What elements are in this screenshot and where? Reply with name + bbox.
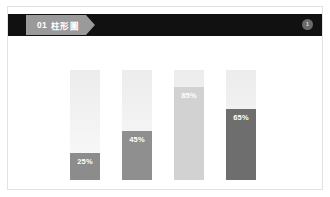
bar-track: 45% [122,70,152,180]
bar-value-label: 45% [129,135,145,144]
bar-value-label: 85% [181,91,197,100]
bar-fill[interactable]: 85% [174,87,204,181]
bar-group[interactable]: 25% [70,70,100,180]
page-number-badge: 1 [302,19,313,30]
bar-track: 25% [70,70,100,180]
slide-title-number: 01 [37,20,47,30]
bar-track: 65% [226,70,256,180]
bar-fill[interactable]: 65% [226,109,256,181]
slide-title-tag[interactable]: 01 柱形圖 [26,15,95,35]
bar-track: 85% [174,70,204,180]
bar-chart: 25%45%85%65% [8,36,323,190]
bar-value-label: 25% [77,157,93,166]
slide-title-text: 柱形圖 [51,19,79,31]
bar-fill[interactable]: 45% [122,131,152,181]
bar-group[interactable]: 65% [226,70,256,180]
bar-value-label: 65% [233,113,249,122]
bar-group[interactable]: 85% [174,70,204,180]
bar-group[interactable]: 45% [122,70,152,180]
slide-canvas: 01 柱形圖 1 25%45%85%65% [7,6,323,190]
bar-fill[interactable]: 25% [70,153,100,181]
